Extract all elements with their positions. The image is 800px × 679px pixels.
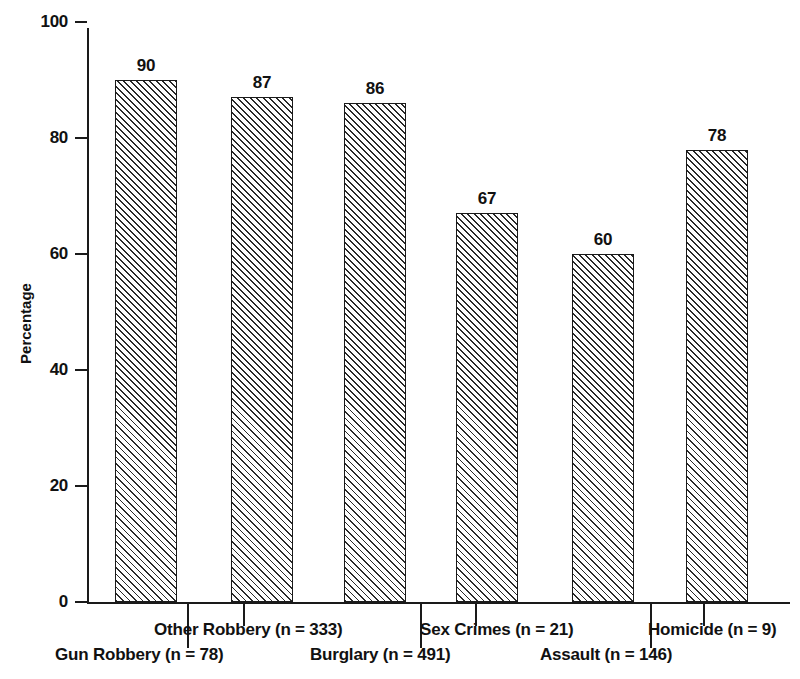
bar-value-label: 67 — [456, 190, 518, 207]
category-label: Other Robbery (n = 333) — [154, 621, 343, 638]
bar — [572, 254, 634, 602]
bar — [456, 213, 518, 602]
category-label: Burglary (n = 491) — [310, 646, 450, 663]
bar-value-label: 60 — [572, 231, 634, 248]
bar — [115, 80, 177, 602]
category-label: Homicide (n = 9) — [648, 621, 777, 638]
bar-value-label: 87 — [231, 74, 293, 91]
category-label: Sex Crimes (n = 21) — [420, 621, 574, 638]
plot-area: 90Gun Robbery (n = 78)87Other Robbery (n… — [0, 0, 800, 679]
bar — [231, 97, 293, 602]
bar-value-label: 86 — [344, 80, 406, 97]
bar-value-label: 90 — [115, 57, 177, 74]
category-label: Assault (n = 146) — [540, 646, 672, 663]
bar — [686, 150, 748, 602]
bar-value-label: 78 — [686, 127, 748, 144]
bar-chart: Percentage 100806040200 90Gun Robbery (n… — [0, 0, 800, 679]
category-label: Gun Robbery (n = 78) — [55, 646, 223, 663]
bar — [344, 103, 406, 602]
